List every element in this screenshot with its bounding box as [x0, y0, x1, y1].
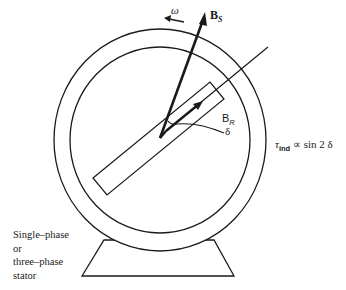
stator-field-label: BS [210, 8, 222, 24]
stator-caption-line: three–phase [13, 255, 69, 269]
stator-caption-line: Single–phase [13, 228, 69, 242]
torque-equation: τind ∝ sin 2 δ [275, 138, 333, 153]
omega-arrowhead [164, 15, 171, 22]
stator-caption: Single–phase or three–phase stator [13, 228, 69, 282]
omega-label: ω [171, 4, 179, 16]
stator-caption-line: or [13, 242, 69, 256]
stator-field-arrowhead [199, 12, 207, 26]
stator-caption-line: stator [13, 269, 69, 283]
stator-inner-circle [70, 47, 250, 233]
omega-rotation-arrow [169, 19, 184, 22]
torque-angle-label: δ [225, 125, 230, 137]
